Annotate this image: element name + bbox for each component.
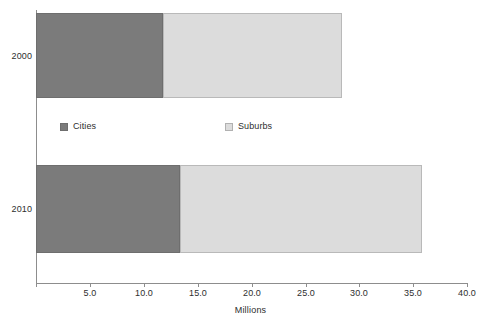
x-axis-tick-label-40: 40.0 xyxy=(458,288,476,298)
x-axis-tick-label-20: 20.0 xyxy=(243,288,261,298)
chart-legend: Cities Suburbs xyxy=(0,122,501,136)
x-axis-tick-5 xyxy=(90,283,91,287)
x-axis-tick-40 xyxy=(467,283,468,287)
bar-2010-suburbs xyxy=(180,165,422,253)
x-axis-tick-35 xyxy=(413,283,414,287)
x-axis-tick-25 xyxy=(306,283,307,287)
legend-swatch-suburbs-icon xyxy=(225,123,233,131)
legend-label-suburbs: Suburbs xyxy=(238,122,272,131)
x-axis-tick-label-10: 10.0 xyxy=(135,288,153,298)
legend-item-suburbs[interactable]: Suburbs xyxy=(225,122,272,131)
y-axis-category-2000: 2000 xyxy=(4,51,32,61)
x-axis-tick-label-25: 25.0 xyxy=(297,288,315,298)
legend-label-cities: Cities xyxy=(73,122,96,131)
y-axis-category-2010: 2010 xyxy=(4,204,32,214)
legend-swatch-cities-icon xyxy=(60,123,68,131)
bar-2000-suburbs xyxy=(163,13,342,98)
x-axis-tick-label-5: 5.0 xyxy=(84,288,97,298)
x-axis-tick-15 xyxy=(198,283,199,287)
legend-item-cities[interactable]: Cities xyxy=(60,122,96,131)
x-axis-tick-30 xyxy=(359,283,360,287)
stacked-bar-chart: 2000 2010 Cities Suburbs 5.0 10.0 15.0 2… xyxy=(0,0,501,330)
x-axis-title: Millions xyxy=(0,305,501,315)
x-axis-tick-label-15: 15.0 xyxy=(189,288,207,298)
bar-2000-cities xyxy=(36,13,163,98)
x-axis-tick-20 xyxy=(252,283,253,287)
x-axis-tick-0 xyxy=(36,283,37,287)
x-axis-tick-label-35: 35.0 xyxy=(404,288,422,298)
x-axis-tick-label-30: 30.0 xyxy=(350,288,368,298)
bar-2010-cities xyxy=(36,165,180,253)
x-axis-tick-10 xyxy=(144,283,145,287)
